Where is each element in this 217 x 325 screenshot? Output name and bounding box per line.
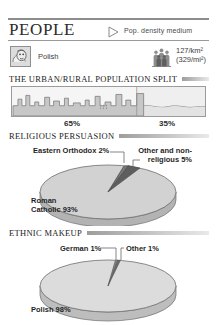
density-values: 127/km² (329/mi²) [176,46,206,64]
people-fact-panel: PEOPLE Pop. density medium Polish [0,0,217,325]
label-polish: Polish 98% [31,305,71,314]
language-fact: Polish [10,46,58,67]
section-header-ethnic: ETHNIC MAKEUP [9,228,209,238]
page-title: PEOPLE [9,20,75,39]
urban-rural-chart [11,86,206,117]
face-icon [10,46,31,67]
density-metric: 127/km² [176,46,206,55]
label-other-nonreligious: Other and non-religious 5% [130,146,192,164]
section-rule [182,77,209,81]
section-title-ethnic: ETHNIC MAKEUP [9,228,82,238]
rural-percent: 35% [159,119,175,128]
header-rule-bottom [8,40,209,41]
label-other-ethnic: Other 1% [126,244,159,253]
language-label: Polish [38,52,58,61]
section-rule [119,134,209,138]
section-title-urban-rural: THE URBAN/RURAL POPULATION SPLIT [9,74,177,84]
density-imperial: (329/mi²) [176,55,206,64]
urban-percent: 65% [64,119,80,128]
crowd-icon [152,47,171,67]
pop-density-label: Pop. density medium [124,27,192,34]
label-roman-catholic: Roman Catholic 93% [31,196,87,214]
urban-rural-values: 65% 35% [11,119,206,130]
label-german: German 1% [60,244,101,253]
label-eastern-orthodox: Eastern Orthodox 2% [33,146,109,155]
pop-density-tag: Pop. density medium [108,24,192,36]
density-fact: 127/km² (329/mi²) [152,46,206,67]
triangle-right-icon [108,24,119,36]
section-rule [87,231,209,235]
section-header-urban-rural: THE URBAN/RURAL POPULATION SPLIT [9,74,209,84]
